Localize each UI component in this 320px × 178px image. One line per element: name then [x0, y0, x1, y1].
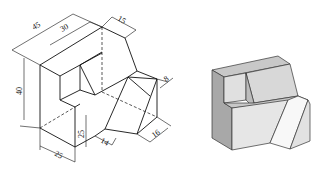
isometric-dimensioned-drawing: 45 30 15 40 25 25 14 16 8 — [0, 0, 180, 178]
dim-16: 16 — [150, 128, 162, 140]
dim-8: 8 — [162, 74, 170, 84]
shaded-3d-render — [180, 0, 320, 178]
dim-25-height: 25 — [77, 130, 86, 138]
dimension-labels: 45 30 15 40 25 25 14 16 8 — [15, 14, 170, 161]
dim-14: 14 — [99, 136, 110, 148]
upper-front-recess — [224, 73, 246, 103]
dim-40: 40 — [15, 87, 24, 95]
object-outline — [40, 27, 157, 147]
dim-15: 15 — [116, 14, 127, 26]
dim-45: 45 — [31, 20, 42, 32]
dimension-lines — [12, 14, 173, 162]
dim-30: 30 — [59, 22, 70, 34]
dim-25-width: 25 — [53, 149, 64, 161]
